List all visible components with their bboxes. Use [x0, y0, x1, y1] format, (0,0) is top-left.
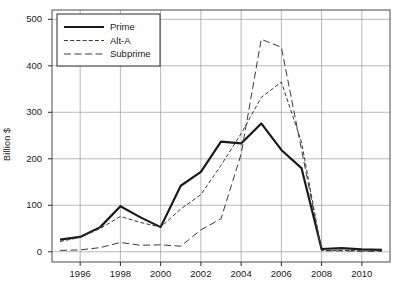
x-tick-label: 2000: [143, 269, 179, 279]
x-tick-label: 2010: [344, 269, 380, 279]
legend-label-subprime: Subprime: [110, 48, 151, 59]
y-tick-label: 200: [12, 154, 42, 164]
y-tick-label: 400: [12, 61, 42, 71]
x-tick-label: 1998: [102, 269, 138, 279]
x-tick-label: 2004: [223, 269, 259, 279]
plot-area: PrimeAlt-ASubprime: [0, 0, 407, 297]
chart-legend[interactable]: PrimeAlt-ASubprime: [57, 14, 160, 66]
y-tick-label: 0: [12, 247, 42, 257]
x-tick-label: 2008: [304, 269, 340, 279]
x-tick-label: 1996: [62, 269, 98, 279]
series-line-alt-a: [60, 82, 382, 251]
series-line-prime: [60, 123, 382, 249]
y-tick-label: 500: [12, 14, 42, 24]
x-tick-label: 2006: [263, 269, 299, 279]
y-tick-label: 100: [12, 200, 42, 210]
legend-label-prime: Prime: [110, 21, 135, 32]
data-series-group: [60, 39, 382, 251]
legend-label-alt-a: Alt-A: [110, 35, 131, 46]
line-chart: Billion $ PrimeAlt-ASubprime 01002003004…: [0, 0, 407, 297]
x-tick-label: 2002: [183, 269, 219, 279]
y-tick-label: 300: [12, 107, 42, 117]
